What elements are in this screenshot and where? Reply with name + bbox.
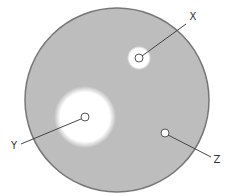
antibiotic-disc-x [135,54,143,62]
antibiotic-disc-z [161,129,169,137]
petri-dish [25,8,209,192]
label-z: Z [214,154,221,165]
label-y: Y [10,140,18,151]
antibiotic-disc-y [81,113,89,121]
petri-dish-diagram: X Y Z [0,0,228,196]
diagram-canvas: X Y Z [0,0,228,196]
label-x: X [190,11,197,22]
